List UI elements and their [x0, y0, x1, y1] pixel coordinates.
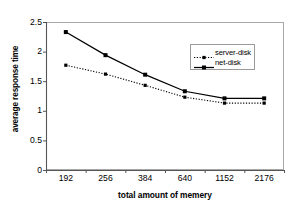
data-point-marker	[104, 73, 107, 76]
legend-item: net-disk	[193, 57, 251, 67]
x-tick-label: 640	[165, 173, 205, 183]
data-point-marker	[183, 89, 187, 93]
data-point-marker	[183, 96, 186, 99]
data-point-marker	[223, 96, 227, 100]
x-tick-label: 256	[86, 173, 126, 183]
chart-figure: average response time 00.511.522.5 19225…	[0, 0, 292, 213]
chart-legend: server-disknet-disk	[190, 44, 255, 70]
x-axis-title: total amount of memery	[46, 190, 284, 200]
legend-label: server-disk	[215, 48, 251, 57]
x-tick-label: 192	[46, 173, 86, 183]
data-point-marker	[263, 102, 266, 105]
data-point-marker	[104, 53, 108, 57]
x-tick-label: 1152	[205, 173, 245, 183]
data-point-marker	[262, 96, 266, 100]
legend-label: net-disk	[215, 58, 241, 67]
series-line-server-disk	[66, 65, 264, 103]
x-tick-label: 2176	[244, 173, 284, 183]
data-point-marker	[64, 30, 68, 34]
legend-item: server-disk	[193, 47, 251, 57]
data-point-marker	[223, 102, 226, 105]
data-point-marker	[143, 73, 147, 77]
legend-marker	[202, 65, 206, 69]
data-point-marker	[144, 84, 147, 87]
data-point-marker	[64, 64, 67, 67]
legend-swatch-icon	[193, 58, 215, 67]
x-tick-label: 384	[125, 173, 165, 183]
x-axis-tick-labels: 19225638464011522176	[46, 173, 284, 187]
legend-swatch-icon	[193, 48, 215, 57]
